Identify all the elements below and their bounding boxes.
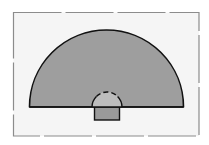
small-rectangle (95, 107, 120, 120)
diagram (0, 0, 209, 145)
